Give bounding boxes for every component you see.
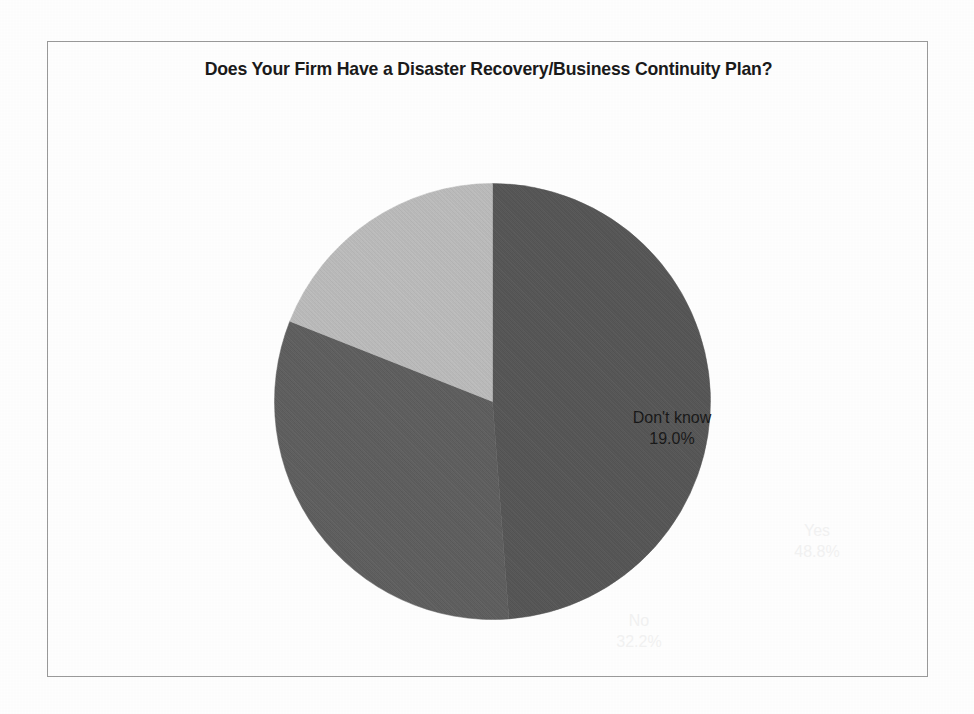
pie-chart: Yes 48.8% No 32.2% Don't know 19.0% [274,183,711,620]
scanned-page: Does Your Firm Have a Disaster Recovery/… [0,0,974,714]
pie-slice-label-yes: Yes 48.8% [757,521,877,563]
pie-slice-name-yes: Yes [757,521,877,542]
pie-slice-value-no: 32.2% [579,632,699,653]
pie-chart-svg [274,183,711,620]
pie-slice-value-yes: 48.8% [757,542,877,563]
pie-slice-yes [493,184,711,619]
chart-frame: Does Your Firm Have a Disaster Recovery/… [47,41,928,677]
chart-title: Does Your Firm Have a Disaster Recovery/… [79,58,898,80]
